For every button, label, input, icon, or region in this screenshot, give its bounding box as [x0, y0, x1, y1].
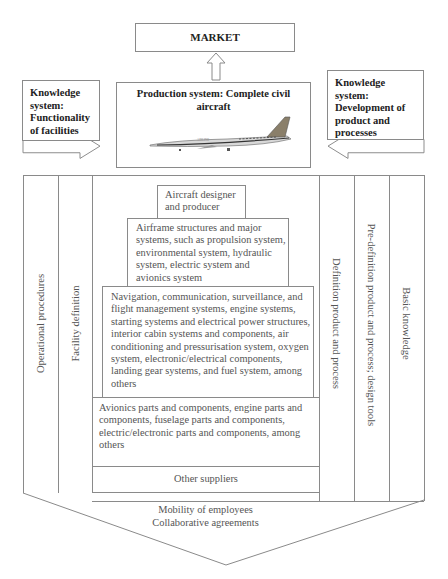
- svg-text:AIRLINE: AIRLINE: [197, 138, 209, 142]
- level-other-suppliers-box: Other suppliers: [92, 466, 320, 493]
- level2-text: Airframe structures and major systems, s…: [136, 222, 286, 284]
- knowledge-left-label: Knowledge system: Functionality of facil…: [30, 87, 96, 137]
- aircraft-image: AIRLINE: [117, 83, 312, 169]
- level-parts-components-box: Avionics parts and components, engine pa…: [92, 397, 320, 467]
- level-airframe-box: Airframe structures and major systems, s…: [127, 218, 289, 288]
- up-arrow-icon: [207, 53, 225, 80]
- level3-text: Navigation, communication, surveillance,…: [111, 291, 311, 390]
- level1-text: Aircraft designer and producer: [165, 189, 241, 214]
- level-aircraft-designer-box: Aircraft designer and producer: [157, 185, 246, 219]
- level4-text: Avionics parts and components, engine pa…: [99, 402, 309, 452]
- frame-top-line: [23, 175, 424, 176]
- level-systems-box: Navigation, communication, surveillance,…: [102, 286, 314, 398]
- frame-col-line: [23, 175, 24, 493]
- column-basic-knowledge: Basic knowledge: [401, 264, 412, 384]
- frame-col-line: [354, 175, 355, 501]
- bottom-collaborative-label: Collaborative agreements: [92, 517, 319, 529]
- column-operational-procedures: Operational procedures: [35, 264, 46, 384]
- frame-col-line: [424, 175, 425, 501]
- column-facility-definition: Facility definition: [70, 264, 81, 384]
- frame-col-line: [389, 175, 390, 501]
- production-system-box: Production system: Complete civil aircra…: [116, 82, 311, 168]
- knowledge-system-facilities-box: Knowledge system: Functionality of facil…: [22, 80, 100, 141]
- knowledge-system-development-box: Knowledge system: Development of product…: [327, 70, 424, 140]
- frame-bottom-right-line: [319, 501, 424, 502]
- market-label: MARKET: [136, 24, 294, 51]
- knowledge-right-label: Knowledge system: Development of product…: [335, 77, 421, 140]
- market-box: MARKET: [135, 23, 295, 52]
- bottom-mobility-label: Mobility of employees: [92, 504, 319, 516]
- column-pre-definition-design-tools: Pre-definition product and process; desi…: [366, 224, 377, 424]
- column-definition-product-process: Definition product and process: [331, 244, 342, 404]
- frame-col-line: [58, 175, 59, 493]
- level5-text: Other suppliers: [93, 467, 319, 491]
- frame-bottom-center-line: [92, 501, 319, 502]
